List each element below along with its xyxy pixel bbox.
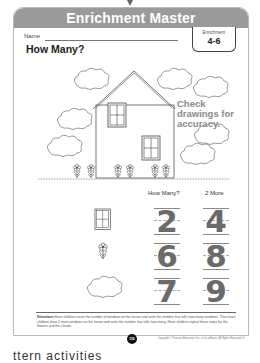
row-flower-icon bbox=[99, 243, 107, 259]
page-number: 116 bbox=[127, 334, 137, 344]
directions-label: Directions bbox=[37, 315, 54, 319]
caption-text: ttern activities bbox=[13, 349, 102, 363]
cloud-icon bbox=[180, 143, 215, 164]
copyright: Copyright © Pearson Education, Inc., or … bbox=[158, 337, 245, 340]
column-header-two-more: 2 More bbox=[205, 190, 224, 196]
column-header-how-many: How Many? bbox=[148, 190, 180, 196]
answer-note: Check drawings for accuracy. bbox=[177, 99, 234, 129]
directions: Directions Have children count the numbe… bbox=[37, 315, 237, 329]
row-cloud-icon bbox=[87, 276, 122, 297]
answer-how-many-windows: 2 bbox=[154, 206, 180, 236]
directions-text: Have children count the number of window… bbox=[37, 315, 235, 328]
cloud-icon bbox=[57, 108, 92, 129]
directions-divider bbox=[36, 312, 236, 313]
cloud-icon bbox=[193, 76, 228, 97]
answer-how-many-clouds: 7 bbox=[154, 276, 180, 306]
answer-how-many-flowers: 6 bbox=[154, 241, 180, 271]
cloud-icon bbox=[47, 135, 82, 156]
cloud-icon bbox=[157, 68, 192, 89]
answer-two-more-clouds: 9 bbox=[203, 276, 229, 306]
answer-two-more-windows: 4 bbox=[203, 206, 229, 236]
answer-two-more-flowers: 8 bbox=[203, 241, 229, 271]
cloud-icon bbox=[74, 68, 109, 89]
row-window-icon bbox=[95, 209, 110, 229]
